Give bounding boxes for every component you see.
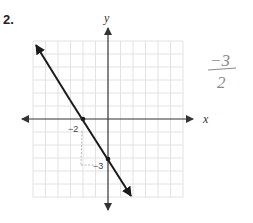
y-axis-label: y — [103, 11, 110, 25]
coordinate-graph: x y −2 −3 −3 2 — [0, 0, 253, 223]
x-intercept-point — [81, 117, 86, 122]
y-intercept-label: −3 — [93, 161, 103, 171]
slope-numerator: −3 — [210, 51, 230, 70]
axes — [22, 28, 193, 210]
x-axis-label: x — [202, 112, 209, 126]
slope-denominator: 2 — [217, 73, 226, 92]
handwritten-slope: −3 2 — [208, 51, 236, 92]
x-intercept-label: −2 — [68, 124, 78, 134]
y-intercept-point — [106, 157, 111, 162]
